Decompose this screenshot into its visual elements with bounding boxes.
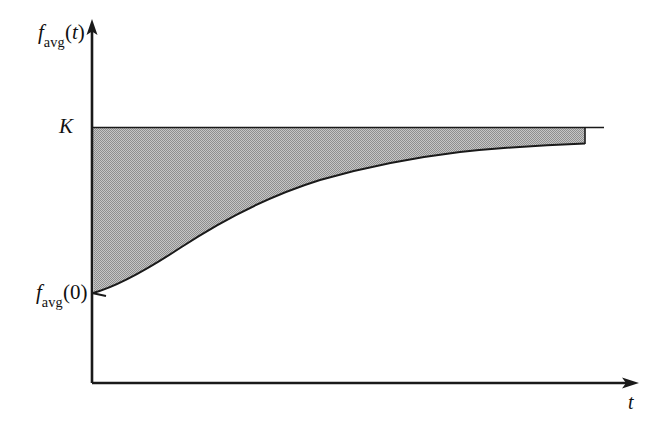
shaded-region — [93, 128, 585, 293]
f-avg-zero-paren-close: ) — [80, 280, 87, 304]
f-avg-zero-arg: 0 — [70, 280, 81, 304]
y-axis-label-paren-close: ) — [78, 20, 85, 44]
y-tick-label-k: K — [59, 116, 73, 137]
f-avg-zero-paren-open: ( — [63, 280, 70, 304]
figure-container: favg(t) K favg(0) t — [0, 0, 666, 438]
plot-svg — [0, 0, 666, 438]
f-avg-zero-base: f — [36, 280, 42, 304]
y-axis-label-subscript: avg — [44, 34, 65, 50]
f-avg-zero-subscript: avg — [42, 294, 63, 310]
y-axis-label: favg(t) — [38, 22, 85, 46]
y-tick-label-f-avg-zero: favg(0) — [36, 282, 87, 306]
x-axis-label: t — [628, 392, 634, 412]
y-tick-initial-mark — [92, 293, 106, 296]
y-axis-label-paren-open: ( — [65, 20, 72, 44]
y-axis-label-base: f — [38, 20, 44, 44]
